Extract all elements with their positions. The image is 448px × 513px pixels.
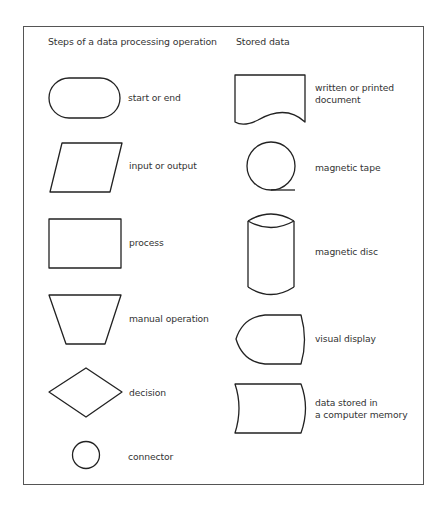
label-document-line2: document [315,94,361,107]
label-memory-line1: data stored in [315,397,378,410]
label-decision: decision [129,387,166,400]
document-symbol-icon [235,75,305,124]
label-manual-operation: manual operation [129,313,209,326]
label-magnetic-tape: magnetic tape [315,162,380,175]
parallelogram-symbol-icon [50,143,122,192]
stored-data-memory-icon [235,384,306,433]
terminal-symbol-icon [49,78,120,118]
decision-diamond-icon [49,368,122,417]
magnetic-tape-icon [247,142,295,190]
trapezoid-symbol-icon [49,295,121,344]
label-input-or-output: input or output [129,160,197,173]
label-memory-line2: a computer memory [315,409,407,422]
label-connector: connector [128,451,173,464]
label-visual-display: visual display [315,333,376,346]
flowchart-symbols [0,0,448,513]
connector-circle-icon [73,442,100,469]
visual-display-icon [236,315,305,364]
label-process: process [129,237,164,250]
label-document-line1: written or printed [315,82,394,95]
label-start-or-end: start or end [128,92,181,105]
magnetic-disc-cylinder-icon [248,214,294,295]
label-magnetic-disc: magnetic disc [315,246,378,259]
process-rectangle-icon [49,219,121,268]
